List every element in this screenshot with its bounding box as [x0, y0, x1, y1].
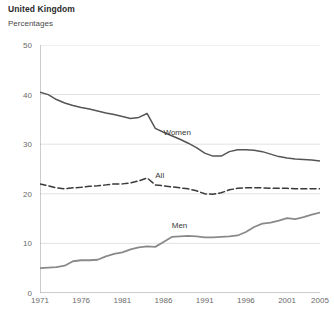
page-title: United Kingdom — [8, 4, 75, 14]
x-axis-tick-label: 2001 — [278, 296, 296, 305]
y-axis-labels: 01020304050 — [0, 45, 36, 293]
chart-container: United Kingdom Percentages 01020304050 1… — [0, 0, 334, 318]
series-label-men: Men — [172, 221, 188, 230]
x-axis-tick-label: 1971 — [31, 296, 49, 305]
series-label-women: Women — [164, 128, 191, 137]
plot-area — [40, 45, 320, 293]
series-label-all: All — [155, 171, 164, 180]
chart-plot-svg — [40, 45, 320, 293]
x-axis-tick-label: 1991 — [196, 296, 214, 305]
x-axis-tick-label: 1996 — [237, 296, 255, 305]
x-axis-labels: 19711976198119861991199620012005 — [40, 296, 330, 312]
y-axis-tick-label: 20 — [23, 189, 32, 198]
series-line-women — [40, 92, 320, 161]
x-axis-tick-label: 1981 — [113, 296, 131, 305]
y-axis-tick-label: 30 — [23, 140, 32, 149]
x-axis-tick-label: 1976 — [72, 296, 90, 305]
x-axis-tick-label: 2005 — [311, 296, 329, 305]
y-axis-tick-label: 10 — [23, 239, 32, 248]
series-line-all — [40, 178, 320, 194]
y-axis-tick-label: 40 — [23, 90, 32, 99]
chart-subtitle: Percentages — [8, 19, 53, 28]
y-axis-tick-label: 50 — [23, 41, 32, 50]
x-axis-tick-label: 1986 — [155, 296, 173, 305]
